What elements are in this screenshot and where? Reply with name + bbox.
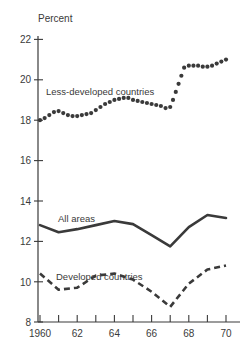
x-tick-label-68: 68 (183, 328, 195, 339)
data-point (131, 98, 135, 102)
y-tick-label-8: 8 (25, 317, 31, 328)
data-point (210, 64, 214, 68)
data-point (52, 110, 56, 114)
y-tick-label-18: 18 (20, 115, 32, 126)
data-point (196, 64, 200, 68)
x-tick-label-64: 64 (109, 328, 121, 339)
data-point (215, 62, 219, 66)
x-tick-label-66: 66 (146, 328, 158, 339)
x-tick-label-70: 70 (220, 328, 232, 339)
data-point (89, 111, 93, 115)
series-label-less-developed-countries: Less-developed countries (46, 86, 155, 97)
data-point (57, 109, 61, 113)
data-point (140, 100, 144, 104)
data-point (61, 111, 65, 115)
data-point (75, 114, 79, 118)
data-point (94, 108, 98, 112)
y-tick-label-10: 10 (20, 277, 32, 288)
data-point (179, 74, 183, 78)
chart-figure: Percent 22 20 18 16 14 12 10 8 (0, 0, 246, 352)
y-tick-label-20: 20 (20, 74, 32, 85)
series-label-developed-countries: Developed countries (56, 271, 143, 282)
data-point (163, 106, 167, 110)
x-tick-label-1960: 1960 (29, 328, 52, 339)
y-tick-label-12: 12 (20, 236, 32, 247)
data-point (70, 114, 74, 118)
data-point (174, 90, 178, 94)
data-point (38, 118, 42, 122)
data-point (205, 65, 209, 69)
data-point (168, 105, 172, 109)
series-label-all-areas: All areas (58, 213, 95, 224)
chart-plot-area: Percent 22 20 18 16 14 12 10 8 (0, 0, 246, 352)
data-point (159, 104, 163, 108)
data-point (154, 103, 158, 107)
data-point (84, 112, 88, 116)
data-point (103, 102, 107, 106)
data-point (224, 57, 228, 61)
data-point (80, 113, 84, 117)
data-point (108, 100, 112, 104)
data-point (219, 60, 223, 64)
data-point (66, 113, 70, 117)
y-tick-label-16: 16 (20, 155, 32, 166)
data-point (176, 82, 180, 86)
data-point (201, 65, 205, 69)
data-point (187, 64, 191, 68)
data-point (112, 98, 116, 102)
data-point (43, 116, 47, 120)
data-point (191, 64, 195, 68)
x-tick-label-62: 62 (72, 328, 84, 339)
y-tick-label-22: 22 (20, 34, 32, 45)
y-axis-title: Percent (38, 13, 73, 24)
data-point (182, 66, 186, 70)
data-point (150, 102, 154, 106)
data-point (47, 113, 51, 117)
y-tick-label-14: 14 (20, 196, 32, 207)
data-point (171, 98, 175, 102)
data-point (145, 101, 149, 105)
data-point (117, 97, 121, 101)
data-point (136, 99, 140, 103)
data-point (98, 105, 102, 109)
